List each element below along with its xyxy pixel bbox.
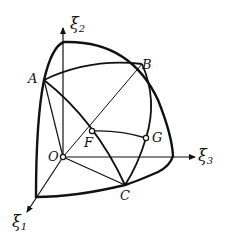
line-O-C — [63, 157, 125, 185]
outer-boundary — [36, 42, 173, 197]
axis-label-xi3: ξ3 — [198, 148, 213, 166]
arc-A-C — [44, 80, 125, 185]
arc-F-G — [92, 131, 146, 138]
label-C: C — [120, 189, 130, 202]
axis-label-xi2: ξ2 — [70, 16, 85, 34]
label-O: O — [48, 150, 59, 163]
line-O-A — [44, 80, 63, 157]
axis-xi1 — [27, 157, 63, 212]
point-F — [89, 128, 94, 133]
point-G — [143, 135, 148, 140]
label-B: B — [142, 58, 152, 71]
label-G: G — [152, 131, 162, 144]
octant-diagram: ξ2 ξ3 ξ1 A B C F G O — [0, 0, 226, 244]
axis-label-xi1: ξ1 — [12, 214, 27, 232]
label-F: F — [84, 136, 93, 149]
arc-A-B — [44, 63, 142, 80]
diagram-drawing — [0, 0, 226, 244]
point-O — [60, 154, 65, 159]
label-A: A — [28, 72, 37, 85]
